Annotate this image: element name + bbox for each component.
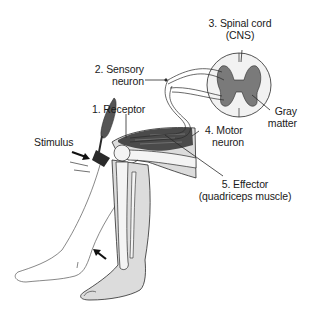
kick-arrow — [93, 249, 106, 259]
spinal-cord — [207, 53, 271, 117]
label-sensory-line2: neuron — [92, 75, 144, 87]
label-motor-line1: 4. Motor — [205, 124, 244, 136]
label-effector: 5. Effector (quadriceps muscle) — [190, 178, 300, 202]
label-spinal-cord-line2: (CNS) — [200, 29, 280, 41]
label-spinal-cord-line1: 3. Spinal cord — [200, 17, 280, 29]
label-gray-line2: matter — [263, 117, 297, 129]
label-sensory-neuron: 2. Sensory neuron — [92, 63, 144, 87]
label-gray-line1: Gray — [263, 105, 297, 117]
label-gray-matter: Gray matter — [263, 105, 297, 129]
reflex-arc-illustration — [0, 0, 312, 314]
lower-leg — [81, 160, 151, 300]
label-spinal-cord: 3. Spinal cord (CNS) — [200, 17, 280, 41]
label-effector-line2: (quadriceps muscle) — [190, 190, 300, 202]
label-receptor: 1. Receptor — [92, 103, 145, 115]
label-motor-line2: neuron — [205, 136, 244, 148]
stimulus-arrow — [72, 152, 90, 160]
label-motor-neuron: 4. Motor neuron — [205, 124, 244, 148]
motion-lines — [70, 162, 90, 172]
reflex-arc-diagram: 3. Spinal cord (CNS) 2. Sensory neuron 1… — [0, 0, 312, 314]
resting-leg-outline — [15, 165, 130, 282]
label-sensory-line1: 2. Sensory — [92, 63, 144, 75]
label-stimulus: Stimulus — [34, 136, 73, 148]
label-effector-line1: 5. Effector — [190, 178, 300, 190]
